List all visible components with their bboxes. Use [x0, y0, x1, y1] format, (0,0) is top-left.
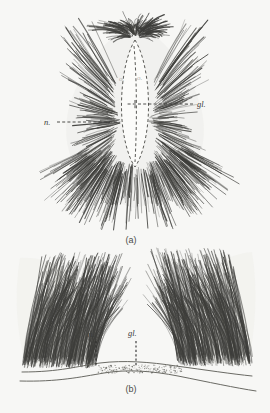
caption-b: (b): [126, 384, 137, 394]
label-n-a: n.: [44, 117, 50, 127]
figure-plate: o. o. gl. n. (a) n. gl. (b): [0, 0, 270, 413]
label-gl-b: gl.: [128, 328, 137, 338]
label-o2-a: o.: [137, 74, 143, 82]
caption-a: (a): [126, 235, 137, 245]
label-o1-a: o.: [119, 75, 125, 83]
label-n-b: n.: [88, 329, 94, 339]
label-gl-a: gl.: [197, 99, 206, 109]
